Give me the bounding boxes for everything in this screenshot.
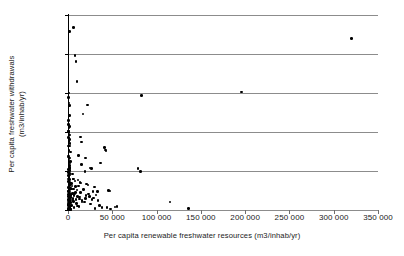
x-axis-tick [112, 210, 113, 214]
data-point [99, 162, 102, 165]
data-point [77, 185, 80, 188]
y-axis-tick [65, 54, 69, 55]
data-point [67, 156, 70, 159]
data-point [73, 194, 76, 197]
data-point [105, 150, 108, 153]
data-point [68, 104, 71, 107]
data-point [67, 190, 70, 193]
data-point [75, 198, 78, 201]
data-point [79, 191, 82, 194]
data-point [84, 157, 87, 160]
x-axis-tick [378, 210, 379, 214]
data-point [88, 195, 91, 198]
plot-area [68, 15, 378, 210]
data-point [68, 167, 71, 170]
data-point [82, 188, 85, 191]
x-axis-line [68, 210, 378, 211]
data-point [80, 163, 83, 166]
data-point [87, 184, 90, 187]
x-axis-tick [289, 210, 290, 214]
data-point [187, 207, 190, 210]
data-point [106, 206, 109, 209]
data-point [86, 104, 89, 107]
data-point [67, 130, 70, 133]
data-point [67, 96, 70, 99]
data-point [83, 201, 86, 204]
data-point [68, 30, 71, 33]
data-point [109, 190, 112, 193]
data-point [80, 182, 83, 185]
y-axis-title-line1: Per capita freshwater withdrawals [7, 56, 17, 173]
data-point [95, 194, 98, 197]
data-point [75, 60, 78, 63]
data-point [101, 206, 104, 209]
gridline [68, 93, 378, 94]
x-axis-tick [334, 210, 335, 214]
data-point [77, 154, 80, 157]
y-axis-title-line2: (m3/inhab/yr) [17, 91, 27, 137]
data-point [92, 190, 95, 193]
data-point [67, 136, 70, 139]
x-axis-tick-label: 350 000 [348, 213, 404, 222]
data-point [82, 113, 85, 116]
data-point [70, 182, 73, 185]
data-point [71, 199, 74, 202]
data-point [89, 203, 92, 206]
data-point [71, 173, 74, 176]
data-point [84, 197, 87, 200]
x-axis-title: Per capita renewable freshwater resource… [0, 231, 404, 240]
data-point [73, 206, 76, 209]
data-point [79, 136, 82, 139]
data-point [68, 114, 71, 117]
data-point [74, 54, 77, 57]
data-point [97, 199, 100, 202]
data-point [72, 188, 75, 191]
data-point [139, 170, 142, 173]
data-point [84, 170, 87, 173]
data-point [69, 193, 72, 196]
data-point [91, 198, 94, 201]
data-point [68, 207, 71, 210]
gridline [68, 171, 378, 172]
y-axis-tick [65, 15, 69, 16]
data-point [74, 191, 77, 194]
data-point [67, 145, 70, 148]
gridline [68, 15, 378, 16]
data-point [96, 190, 99, 193]
x-axis-tick [245, 210, 246, 214]
data-point [169, 201, 172, 204]
data-point [116, 205, 119, 208]
x-axis-tick [201, 210, 202, 214]
data-point [81, 201, 84, 204]
data-point [94, 207, 97, 210]
data-point [72, 26, 75, 29]
data-point [240, 91, 243, 94]
data-point [90, 167, 93, 170]
data-point [80, 141, 83, 144]
data-point [109, 208, 112, 211]
data-point [67, 178, 70, 181]
data-point [140, 94, 143, 97]
gridline [68, 132, 378, 133]
y-axis-title: Per capita freshwater withdrawals (m3/in… [2, 14, 32, 214]
x-axis-tick [157, 210, 158, 214]
scatter-chart-figure: Per capita freshwater withdrawals (m3/in… [0, 0, 404, 256]
data-point [93, 186, 96, 189]
data-point [74, 180, 77, 183]
data-point [76, 80, 79, 83]
data-point [350, 37, 353, 40]
data-point [67, 119, 70, 122]
gridline [68, 54, 378, 55]
